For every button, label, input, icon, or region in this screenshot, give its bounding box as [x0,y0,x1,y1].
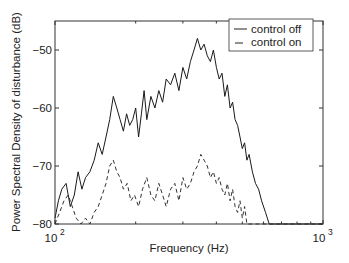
y-tick-label: −80 [32,218,52,230]
x-axis-ticks: 102103 [45,21,333,244]
legend-label-control-off: control off [251,23,302,35]
y-axis-ticks: −50−60−70−80 [32,44,323,230]
axes-box [55,21,323,224]
x-tick-label: 10 [45,232,58,244]
psd-chart: −50−60−70−80 102103 Frequency (Hz) Power… [0,0,349,263]
legend: control off control on [229,19,313,51]
y-axis-label: Power Spectral Density of disturbance (d… [10,12,22,232]
y-tick-label: −60 [32,102,52,114]
x-tick-exponent: 3 [328,227,333,237]
y-tick-label: −50 [32,44,52,56]
series-line-control-on [55,154,323,224]
legend-label-control-on: control on [251,36,302,48]
x-tick-label: 10 [313,232,326,244]
x-axis-label: Frequency (Hz) [149,242,228,254]
x-tick-exponent: 2 [60,227,65,237]
plot-area [55,38,323,224]
series-line-control-off [55,38,323,224]
y-tick-label: −70 [32,160,52,172]
